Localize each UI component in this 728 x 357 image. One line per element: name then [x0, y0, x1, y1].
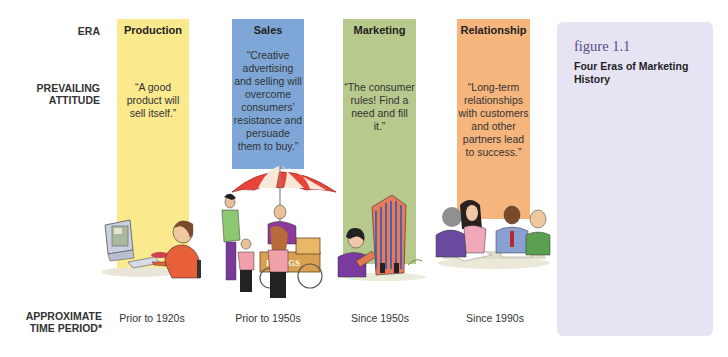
figure-title: Four Eras of Marketing History — [574, 60, 709, 86]
figure-caption-panel: figure 1.1 Four Eras of Marketing Histor… — [557, 22, 713, 336]
era-title: Production — [117, 19, 189, 41]
era-quote: “Creative advertising and selling will o… — [232, 49, 304, 153]
row-label-time-period: APPROXIMATE TIME PERIOD* — [0, 310, 102, 334]
era-title: Marketing — [343, 19, 416, 41]
row-label-prevailing-attitude: PREVAILING ATTITUDE — [10, 82, 100, 106]
era-time-period: Since 1990s — [440, 312, 550, 324]
person-at-computer-illustration — [100, 210, 205, 280]
era-time-period: Prior to 1950s — [213, 312, 323, 324]
row-label-era: ERA — [40, 25, 100, 37]
era-column-sales: Sales “Creative advertising and selling … — [232, 19, 304, 169]
era-time-period: Prior to 1920s — [97, 312, 207, 324]
era-title: Sales — [232, 19, 304, 41]
era-quote: “A good product will sell itself.” — [117, 81, 189, 120]
era-column-relationship: Relationship “Long-term relationships wi… — [457, 19, 530, 219]
row-label-attitude-line1: PREVAILING — [10, 82, 100, 94]
era-quote: “The consumer rules! Find a need and fil… — [343, 81, 416, 133]
row-label-attitude-line2: ATTITUDE — [10, 94, 100, 106]
era-quote: “Long-term relationships with customers … — [457, 81, 530, 159]
business-meeting-illustration — [434, 195, 552, 270]
era-time-period: Since 1950s — [325, 312, 435, 324]
row-label-time-line2: TIME PERIOD* — [0, 322, 102, 334]
era-title: Relationship — [457, 19, 530, 41]
row-label-time-line1: APPROXIMATE — [0, 310, 102, 322]
figure-number: figure 1.1 — [574, 38, 630, 55]
woman-with-clipboard-and-tower-illustration — [336, 193, 428, 283]
hot-dog-vendor-illustration: HOT GS — [218, 160, 340, 300]
